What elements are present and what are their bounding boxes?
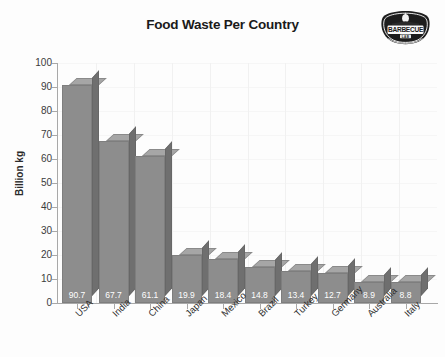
y-axis-tick-mark — [52, 87, 57, 88]
bar[interactable]: 8.8 — [391, 63, 428, 303]
y-axis-tick-label: 90 — [6, 81, 52, 92]
y-axis-tick-label: 80 — [6, 105, 52, 116]
bar-value-label: 8.8 — [391, 290, 421, 300]
bar[interactable]: 13.4 — [281, 63, 318, 303]
y-axis-tick-mark — [52, 279, 57, 280]
bar-front-face — [135, 156, 165, 303]
y-axis-tick-mark — [52, 207, 57, 208]
y-axis-tick-mark — [52, 111, 57, 112]
logo-badge-icon: BARBECUE LAB — [381, 9, 430, 45]
y-axis-tick-label: 0 — [6, 297, 52, 308]
plot-area: 90.767.761.119.918.414.813.412.78.98.8 — [58, 63, 437, 303]
y-axis-tick-label: 30 — [6, 225, 52, 236]
barbecue-lab-logo: BARBECUE LAB — [381, 9, 430, 45]
y-axis-tick-label: 60 — [6, 153, 52, 164]
bar-value-label: 61.1 — [135, 290, 165, 300]
bar[interactable]: 18.4 — [208, 63, 245, 303]
y-axis-tick-mark — [52, 303, 57, 304]
bar-value-label: 12.7 — [318, 290, 348, 300]
bar[interactable]: 19.9 — [172, 63, 209, 303]
page-title: Food Waste Per Country — [0, 17, 445, 32]
y-axis-tick-mark — [52, 231, 57, 232]
y-axis-line — [57, 63, 58, 304]
y-axis-tick-mark — [52, 255, 57, 256]
y-axis-labels: 0102030405060708090100 — [0, 0, 52, 357]
y-axis-tick-label: 10 — [6, 273, 52, 284]
bar-value-label: 90.7 — [62, 290, 92, 300]
logo-primary-text: BARBECUE — [388, 26, 424, 33]
y-axis-tick-label: 70 — [6, 129, 52, 140]
y-axis-tick-mark — [52, 63, 57, 64]
y-axis-tick-label: 20 — [6, 249, 52, 260]
bar-value-label: 14.8 — [245, 290, 275, 300]
y-axis-tick-mark — [52, 135, 57, 136]
y-axis-tick-label: 40 — [6, 201, 52, 212]
bar[interactable]: 90.7 — [62, 63, 99, 303]
bar-value-label: 13.4 — [281, 290, 311, 300]
bar[interactable]: 8.9 — [354, 63, 391, 303]
bar[interactable]: 61.1 — [135, 63, 172, 303]
y-axis-tick-label: 100 — [6, 57, 52, 68]
bar-top-face — [398, 275, 436, 282]
bar-side-face — [421, 267, 428, 296]
bar-value-label: 18.4 — [208, 290, 238, 300]
bar-value-label: 67.7 — [99, 290, 129, 300]
bar-value-label: 19.9 — [172, 290, 202, 300]
y-axis-tick-mark — [52, 183, 57, 184]
logo-secondary-text: LAB — [402, 35, 410, 39]
bar[interactable]: 12.7 — [318, 63, 355, 303]
bar[interactable]: 14.8 — [245, 63, 282, 303]
bar-value-label: 8.9 — [354, 290, 384, 300]
bar-front-face — [62, 85, 92, 303]
bar-front-face — [99, 141, 129, 303]
chart-screenshot: Food Waste Per Country BARBECUE LAB Bill… — [0, 0, 445, 357]
bar[interactable]: 67.7 — [99, 63, 136, 303]
y-axis-tick-mark — [52, 159, 57, 160]
y-axis-tick-label: 50 — [6, 177, 52, 188]
